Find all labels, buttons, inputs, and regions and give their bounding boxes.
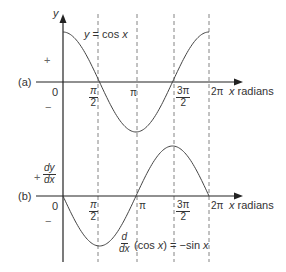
tick-zero-b: 0 xyxy=(52,201,58,212)
y-axis-arrow-icon xyxy=(60,14,67,23)
d-dx-label: ddx xyxy=(119,232,130,254)
frac-den: dx xyxy=(44,175,55,186)
plus-sign-a: + xyxy=(44,55,50,66)
frac-num: π xyxy=(89,200,98,212)
cosine-derivative-figure: y y = cos x + − (a) 0 π2 π 3π2 2π x radi… xyxy=(0,0,286,272)
cos-curve-label: y = cos x xyxy=(84,29,128,40)
frac-den: 2 xyxy=(180,98,186,109)
frac-den: dx xyxy=(119,244,130,255)
dy-dx-label: dydx xyxy=(43,163,56,185)
frac-den: 2 xyxy=(91,212,97,223)
frac-num: 3π xyxy=(176,86,190,98)
tick-pi-half-a: π2 xyxy=(89,86,98,108)
x-axis-label-a: x radians xyxy=(229,86,274,97)
minus-sign-a: − xyxy=(45,102,51,113)
y-axis-label: y xyxy=(53,8,59,19)
derivative-label: (cos x) = −sin x xyxy=(134,240,209,251)
tick-two-pi-b: 2π xyxy=(211,201,223,211)
x-word: radians xyxy=(235,85,274,97)
tick-zero-a: 0 xyxy=(52,87,58,98)
frac-num: d xyxy=(121,232,129,244)
tick-three-pi-half-a: 3π2 xyxy=(176,86,190,108)
tick-two-pi-a: 2π xyxy=(211,87,223,97)
frac-num: dy xyxy=(43,163,56,175)
deriv-rest: ) = −sin xyxy=(163,239,203,251)
frac-den: 2 xyxy=(91,98,97,109)
cos-label-x: x xyxy=(122,28,128,40)
panel-b-label: (b) xyxy=(18,191,31,202)
tick-three-pi-half-b: 3π2 xyxy=(176,200,190,222)
x-axis-label-b: x radians xyxy=(229,200,274,211)
x-word: radians xyxy=(235,199,274,211)
plus-sign-b: + xyxy=(34,172,40,183)
cos-label-rest: = cos xyxy=(90,28,123,40)
grid-lines xyxy=(98,14,209,262)
frac-num: π xyxy=(89,86,98,98)
tick-pi-b: π xyxy=(139,201,146,211)
minus-sign-b: − xyxy=(45,216,51,227)
panel-a-label: (a) xyxy=(18,77,31,88)
deriv-x2: x xyxy=(203,239,209,251)
plot-canvas xyxy=(0,0,286,272)
tick-pi-half-b: π2 xyxy=(89,200,98,222)
deriv-mid: (cos xyxy=(134,239,158,251)
frac-den: 2 xyxy=(180,212,186,223)
frac-num: 3π xyxy=(176,200,190,212)
tick-pi-a: π xyxy=(130,88,137,98)
